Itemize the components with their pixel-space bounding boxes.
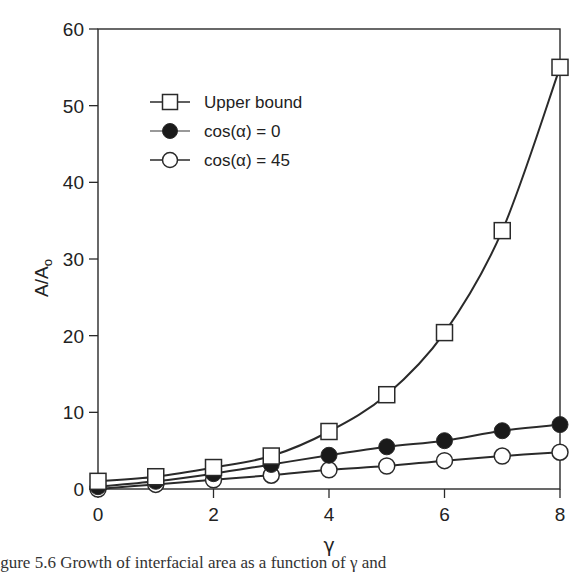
open-circle-marker: [379, 458, 395, 474]
legend-label: Upper bound: [204, 93, 302, 112]
series-layer: [90, 59, 568, 497]
x-tick-label: 0: [93, 504, 104, 525]
y-tick-label: 10: [63, 402, 84, 423]
y-tick-label: 50: [63, 96, 84, 117]
axes: 010203040506002468: [63, 19, 565, 525]
open-square-marker: [437, 325, 453, 341]
y-tick-label: 0: [73, 479, 84, 500]
open-circle-marker: [494, 448, 510, 464]
x-tick-label: 8: [555, 504, 566, 525]
open-circle-marker: [437, 453, 453, 469]
open-square-marker: [379, 387, 395, 403]
open-square-marker: [552, 59, 568, 75]
y-tick-label: 40: [63, 172, 84, 193]
legend-label: cos(α) = 0: [204, 122, 280, 141]
chart: 010203040506002468 Upper boundcos(α) = 0…: [0, 0, 584, 572]
x-tick-label: 4: [324, 504, 335, 525]
legend: Upper boundcos(α) = 0cos(α) = 45: [150, 93, 302, 170]
legend-entry: cos(α) = 0: [150, 122, 280, 141]
y-axis-label: A/Ao: [31, 259, 55, 297]
open-circle-marker: [552, 444, 568, 460]
figure-caption: Figure 5.6 Growth of interfacial area as…: [0, 553, 386, 572]
open-square-marker: [321, 424, 337, 440]
open-square-marker: [90, 473, 106, 489]
open-square-marker: [163, 95, 178, 110]
filled-circle-marker: [494, 423, 510, 439]
y-tick-label: 30: [63, 249, 84, 270]
open-square-marker: [206, 460, 222, 476]
x-tick-label: 2: [208, 504, 219, 525]
y-tick-label: 60: [63, 19, 84, 40]
y-tick-label: 20: [63, 326, 84, 347]
legend-entry: cos(α) = 45: [150, 151, 290, 170]
legend-label: cos(α) = 45: [204, 151, 290, 170]
open-circle-marker: [163, 153, 178, 168]
legend-entry: Upper bound: [150, 93, 302, 112]
x-tick-label: 6: [439, 504, 450, 525]
filled-circle-marker: [321, 447, 337, 463]
open-square-marker: [263, 448, 279, 464]
open-square-marker: [494, 223, 510, 239]
svg-text:A/Ao: A/Ao: [31, 259, 55, 297]
filled-circle-marker: [552, 417, 568, 433]
open-circle-marker: [321, 462, 337, 478]
open-square-marker: [148, 469, 164, 485]
filled-circle-marker: [437, 433, 453, 449]
filled-circle-marker: [163, 124, 178, 139]
filled-circle-marker: [379, 439, 395, 455]
